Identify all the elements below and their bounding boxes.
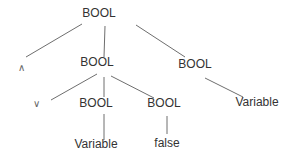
- edge-root-right_bool: [136, 25, 185, 57]
- node-right-bool: BOOL: [178, 58, 211, 70]
- edge-mid_bool-right_child_bool: [111, 76, 154, 98]
- or-operator-symbol: ∨: [33, 99, 40, 109]
- node-mid-bool: BOOL: [80, 56, 113, 68]
- leaf-variable-right: Variable: [235, 96, 278, 108]
- edge-root-mid_bool: [104, 26, 105, 57]
- tree-edges: [0, 0, 290, 158]
- and-operator-symbol: ∧: [18, 63, 25, 73]
- node-left-child-bool: BOOL: [79, 97, 112, 109]
- leaf-false: false: [154, 137, 179, 149]
- edge-root-and_op: [26, 24, 82, 57]
- node-right-child-bool: BOOL: [147, 97, 180, 109]
- leaf-variable-left: Variable: [74, 138, 117, 150]
- parse-tree-diagram: BOOL ∧ BOOL BOOL ∨ BOOL BOOL Variable fa…: [0, 0, 290, 158]
- node-root-bool: BOOL: [82, 7, 115, 19]
